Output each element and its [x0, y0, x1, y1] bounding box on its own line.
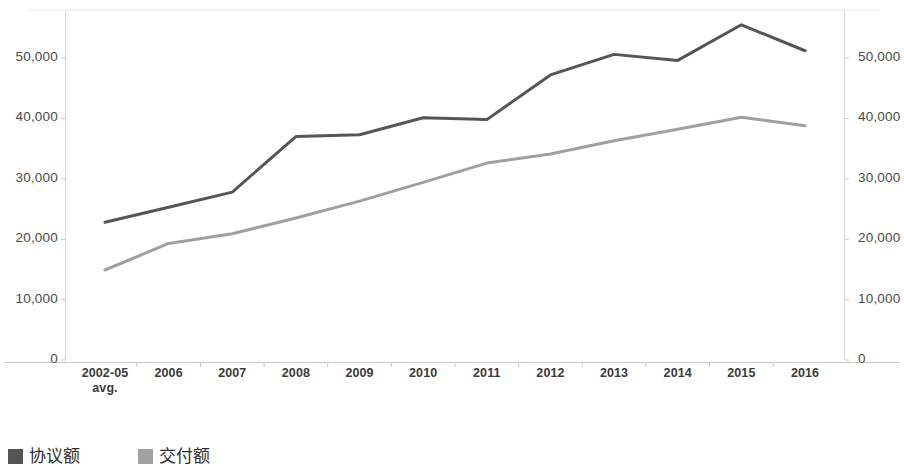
y-axis-left-tick-label: 30,000 — [16, 170, 59, 185]
legend-item-label: 协议额 — [29, 448, 80, 465]
chart-legend: 协议额 交付额 — [8, 448, 210, 465]
y-axis-right-tick-label: 10,000 — [858, 291, 901, 306]
x-axis-tick-main: 2010 — [409, 366, 437, 380]
x-axis-tick-main: 2008 — [282, 366, 310, 380]
x-axis-tick-main: 2015 — [727, 366, 755, 380]
x-axis-tick-label: 2016 — [760, 366, 850, 380]
y-axis-left-tick-label: 50,000 — [16, 49, 59, 64]
x-axis-tick-main: 2006 — [155, 366, 183, 380]
y-axis-right-tick-label: 20,000 — [858, 230, 901, 245]
y-axis-right-tick-label: 0 — [858, 351, 866, 366]
x-axis-tick-main: 2009 — [345, 366, 373, 380]
x-axis-tick-sub: avg. — [60, 381, 150, 395]
legend-swatch-icon — [8, 449, 23, 464]
y-axis-left-tick-label: 0 — [50, 351, 58, 366]
legend-swatch-icon — [138, 449, 153, 464]
legend-item-0[interactable]: 协议额 — [8, 448, 80, 465]
legend-item-label: 交付额 — [159, 448, 210, 465]
x-axis-tick-main: 2014 — [664, 366, 692, 380]
x-axis-tick-main: 2016 — [791, 366, 819, 380]
y-axis-right-tick-label: 50,000 — [858, 49, 901, 64]
legend-item-1[interactable]: 交付额 — [138, 448, 210, 465]
y-axis-right-tick-label: 30,000 — [858, 170, 901, 185]
y-axis-left-tick-label: 40,000 — [16, 109, 59, 124]
y-axis-right-tick-label: 40,000 — [858, 109, 901, 124]
x-axis-tick-main: 2007 — [218, 366, 246, 380]
x-axis-tick-main: 2013 — [600, 366, 628, 380]
x-axis-tick-main: 2011 — [473, 366, 501, 380]
plot-area — [65, 10, 845, 360]
chart-figure: 50,00040,00030,00020,00010,0000 50,00040… — [0, 0, 904, 475]
x-axis-tick-main: 2012 — [536, 366, 564, 380]
x-axis-tick-main: 2002-05 — [82, 366, 129, 380]
y-axis-left-tick-label: 20,000 — [16, 230, 59, 245]
y-axis-left-tick-label: 10,000 — [16, 291, 59, 306]
